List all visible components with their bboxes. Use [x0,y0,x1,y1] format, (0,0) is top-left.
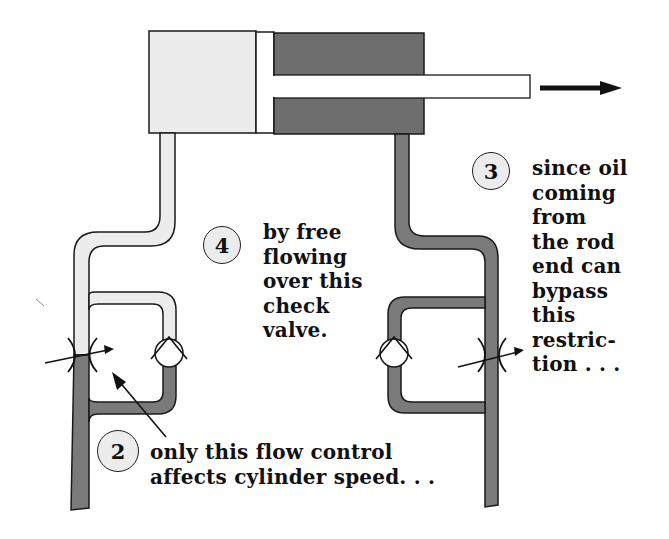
callout-line: since oil [532,156,628,181]
callout-line: coming [532,181,628,206]
callout-line: bypass [532,279,628,304]
right-loop-bottom [388,366,485,413]
callout-line: affects cylinder speed. . . [150,465,435,490]
callout-badge-2: 2 [97,430,139,472]
cap-end-line-upper [74,133,175,355]
hydraulic-cylinder [149,31,530,134]
callout-line: valve. [263,318,363,343]
piston-rod [274,75,530,98]
left-loop-top [89,292,176,340]
cap-end-line-lower [71,355,89,510]
callout-text-2: only this flow control affects cylinder … [150,440,435,489]
callout-badge-4: 4 [203,226,241,264]
callout-line: tion . . . [532,352,628,377]
right-loop-top [388,297,485,340]
check-valve-icon [376,337,412,367]
stray-mark [36,299,44,306]
callout-line: flowing [263,245,363,270]
callout-text-3: since oil coming from the rod end can by… [532,156,628,377]
callout-line: restric- [532,328,628,353]
piston [256,32,274,133]
callout-badge-3: 3 [472,152,510,190]
callout-line: only this flow control [150,440,435,465]
callout-line: the rod [532,230,628,255]
callout-line: end can [532,254,628,279]
cap-end-chamber [149,31,256,133]
callout-text-4: by free flowing over this check valve. [263,220,363,343]
callout-line: this [532,303,628,328]
callout-line: by free [263,220,363,245]
left-loop-bottom [89,366,176,422]
callout-line: check [263,294,363,319]
callout-line: from [532,205,628,230]
check-valve-icon [151,337,187,367]
right-arrow-icon [540,81,622,95]
callout-line: over this [263,269,363,294]
